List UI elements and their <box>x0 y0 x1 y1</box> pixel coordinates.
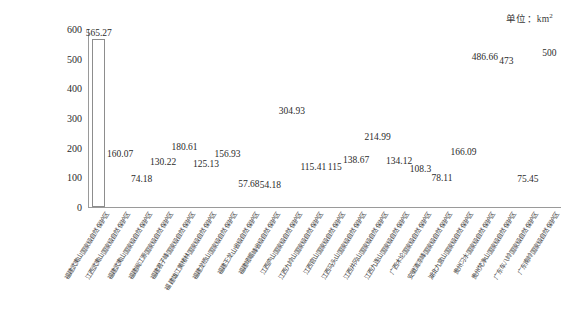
bar-value-label: 108.3 <box>410 164 431 174</box>
bar[interactable] <box>521 185 534 207</box>
bar[interactable] <box>114 160 127 207</box>
bar[interactable] <box>457 158 470 207</box>
x-axis-line <box>88 207 561 208</box>
unit-annotation: 单位：km2 <box>506 11 553 25</box>
bar[interactable] <box>328 173 341 207</box>
bar-value-label: 57.68 <box>238 179 259 189</box>
bar-value-label: 54.18 <box>260 180 281 190</box>
bar[interactable] <box>435 184 448 207</box>
x-axis-category-label-text: 广东南岭国家级自然保护区 <box>516 211 560 276</box>
bar[interactable] <box>199 170 212 207</box>
x-axis-category-label-text: 广西木论国家级自然保护区 <box>387 211 431 276</box>
bar[interactable] <box>135 185 148 207</box>
bar[interactable] <box>500 67 513 207</box>
y-axis-tick-label: 0 <box>77 202 88 213</box>
bar-value-label: 214.99 <box>365 132 391 142</box>
bar-value-label: 74.18 <box>131 174 152 184</box>
y-axis-tick-label: 300 <box>67 113 88 124</box>
bar-value-label: 138.67 <box>343 155 369 165</box>
bar-value-label: 500 <box>542 48 556 58</box>
bar[interactable] <box>221 160 234 207</box>
bar-value-label: 304.93 <box>279 106 305 116</box>
y-axis-tick-label: 500 <box>67 53 88 64</box>
bar-value-label: 473 <box>499 56 513 66</box>
bar[interactable] <box>285 117 298 207</box>
bar-value-label: 115 <box>328 162 342 172</box>
bar-value-label: 156.93 <box>214 149 240 159</box>
unit-annotation-text: 单位：km <box>506 14 549 24</box>
bar[interactable] <box>264 191 277 207</box>
x-axis-category-label-text: 江西官山国家级自然保护区 <box>302 211 346 276</box>
bar[interactable] <box>414 175 427 207</box>
y-axis-tick-label: 200 <box>67 142 88 153</box>
bar[interactable] <box>178 153 191 207</box>
bar[interactable] <box>350 166 363 207</box>
chart-plot-area: 0100200300400500600 565.27160.0774.18130… <box>88 29 560 207</box>
bar[interactable] <box>543 59 556 207</box>
bar[interactable] <box>307 173 320 207</box>
bar-value-label: 565.27 <box>86 28 112 38</box>
bar-value-label: 75.45 <box>517 174 538 184</box>
bar-value-label: 130.22 <box>150 157 176 167</box>
bar[interactable] <box>392 167 405 207</box>
bar-value-label: 166.09 <box>450 147 476 157</box>
bar-value-label: 125.13 <box>193 159 219 169</box>
bar[interactable] <box>242 190 255 207</box>
bar[interactable] <box>156 168 169 207</box>
unit-annotation-superscript: 2 <box>549 12 553 20</box>
bar[interactable] <box>371 143 384 207</box>
bar-value-label: 160.07 <box>107 149 133 159</box>
x-axis-category-label-text: 福建峨嵋峰省级自然保护区 <box>237 211 281 276</box>
bar[interactable] <box>92 39 105 207</box>
bar-value-label: 115.41 <box>300 162 326 172</box>
y-axis-tick-label: 400 <box>67 83 88 94</box>
bar-value-label: 78.11 <box>431 173 452 183</box>
y-axis-tick-label: 100 <box>67 172 88 183</box>
bar-value-label: 180.61 <box>171 142 197 152</box>
bar[interactable] <box>478 63 491 207</box>
bar-value-label: 486.66 <box>472 52 498 62</box>
bar-value-label: 134.12 <box>386 156 412 166</box>
x-axis-category-label-group: 福建武夷山国家级自然保护区江西武夷山国家级自然保护区福建武夷山国家级自然保护区福… <box>88 209 561 333</box>
